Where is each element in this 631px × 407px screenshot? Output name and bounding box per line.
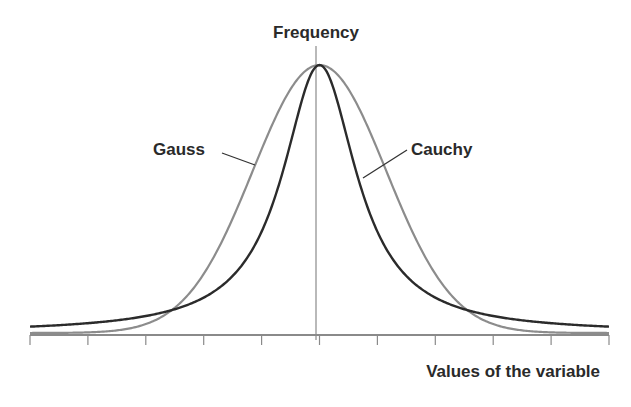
gauss-label: Gauss [153,140,205,159]
cauchy-leader-line [363,150,407,178]
x-axis-label: Values of the variable [426,362,600,381]
x-axis-ticks [30,335,609,345]
y-axis-label: Frequency [273,23,360,42]
cauchy-curve [30,65,609,327]
gauss-curve [30,65,609,333]
distribution-chart: Frequency Gauss Cauchy Values of the var… [0,0,631,407]
gauss-leader-line [222,153,255,165]
cauchy-label: Cauchy [411,140,473,159]
